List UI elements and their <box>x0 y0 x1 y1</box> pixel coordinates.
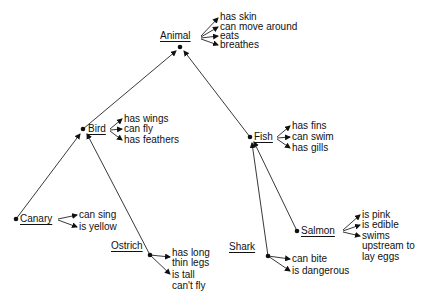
property-label: thin legs <box>172 258 209 268</box>
property-label: has fins <box>292 121 326 131</box>
property-label: can't fly <box>172 281 206 291</box>
node-dot-bird <box>81 127 86 132</box>
node-label-bird: Bird <box>88 124 106 134</box>
node-dot-salmon <box>295 229 300 234</box>
property-label: can bite <box>292 254 327 264</box>
property-label: is dangerous <box>292 266 349 276</box>
property-label: is yellow <box>79 222 117 232</box>
property-label: can sing <box>79 210 116 220</box>
node-label-salmon: Salmon <box>301 226 335 236</box>
node-dot-canary <box>14 217 19 222</box>
edge-canary-bird <box>16 134 80 219</box>
property-label: has gills <box>292 143 328 153</box>
property-label: is tall <box>172 270 195 280</box>
property-label: can fly <box>124 124 153 134</box>
property-label: is edible <box>362 220 399 230</box>
edge-fish-animal <box>184 51 250 137</box>
edge-salmon-fish <box>254 142 297 231</box>
node-dot-ostrich <box>148 253 153 258</box>
property-label: upstream to <box>362 241 415 251</box>
node-label-shark: Shark <box>229 242 255 252</box>
node-label-ostrich: Ostrich <box>111 241 143 251</box>
node-label-fish: Fish <box>254 132 273 142</box>
property-label: lay eggs <box>362 252 399 262</box>
node-dot-animal <box>178 45 183 50</box>
node-label-canary: Canary <box>20 214 52 224</box>
property-label: breathes <box>220 40 259 50</box>
edge-ostrich-bird <box>87 134 150 255</box>
property-label: has feathers <box>124 135 179 145</box>
edge-shark-fish <box>252 143 268 256</box>
node-label-animal: Animal <box>160 31 191 41</box>
node-dot-shark <box>266 254 271 259</box>
property-label: can swim <box>292 132 334 142</box>
node-dot-fish <box>248 135 253 140</box>
